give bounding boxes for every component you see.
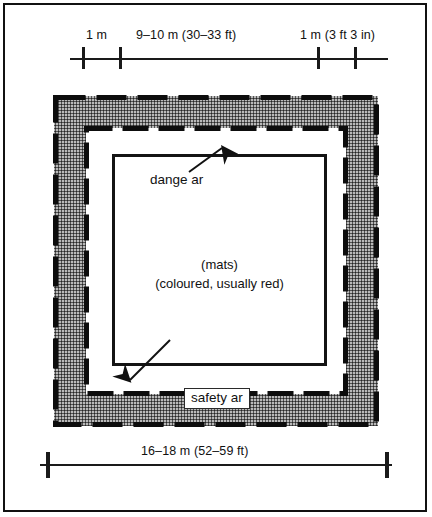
danger-area-label: dange ar [150, 172, 203, 187]
mats-label-line2: (coloured, usually red) [115, 276, 324, 291]
top-dim-label-right-margin: 1 m (3 ft 3 in) [300, 28, 375, 42]
top-dim-tick-1 [82, 47, 85, 69]
top-dimension-line [70, 58, 388, 60]
bottom-dim-tick-left [46, 452, 50, 478]
safety-area-label: safety ar [184, 388, 250, 409]
bottom-dimension-line [40, 464, 392, 466]
mats-label-line1: (mats) [115, 257, 324, 272]
bottom-dim-tick-right [385, 452, 389, 478]
mat-area-square: (mats) (coloured, usually red) [112, 154, 327, 366]
top-dim-tick-2 [119, 47, 122, 69]
top-dim-label-left-margin: 1 m [86, 28, 107, 42]
top-dim-tick-4 [354, 47, 357, 69]
top-dim-label-middle-span: 9–10 m (30–33 ft) [136, 28, 236, 42]
competition-area-diagram: 1 m 9–10 m (30–33 ft) 1 m (3 ft 3 in) (m… [0, 0, 432, 517]
bottom-dim-label: 16–18 m (52–59 ft) [141, 444, 248, 458]
top-dim-tick-3 [317, 47, 320, 69]
